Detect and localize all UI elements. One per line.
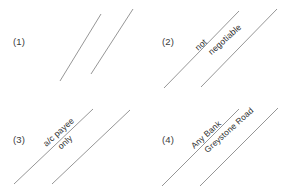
crossing-lines	[0, 0, 148, 98]
crossing-panel-3: (3) a/c payee only	[0, 98, 148, 196]
crossing-line-right	[91, 9, 133, 74]
panel-label-4: (4)	[162, 134, 174, 145]
crossing-panel-4: (4) Any Bank Greystone Road	[149, 98, 297, 196]
panel-label-3: (3)	[13, 134, 25, 145]
crossing-panel-2: (2) not negotiable	[149, 0, 297, 98]
cheque-crossings-diagram: (1) (2) not negotiable (3) a/c payee onl…	[0, 0, 297, 196]
crossing-lines	[0, 98, 148, 196]
crossing-lines	[149, 0, 297, 98]
crossing-line-left	[60, 14, 101, 81]
panel-label-1: (1)	[13, 36, 25, 47]
crossing-panel-1: (1)	[0, 0, 148, 98]
panel-label-2: (2)	[162, 36, 174, 47]
